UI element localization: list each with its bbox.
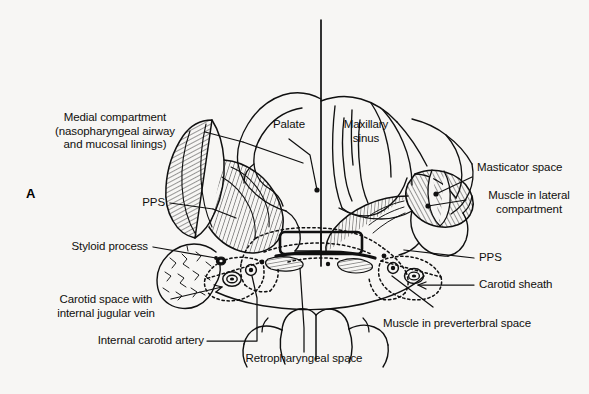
label-carotid-sheath: Carotid sheath (479, 278, 583, 292)
masticator-dot (433, 191, 438, 196)
label-medial-compartment: Medial compartment (nasopharyngeal airwa… (20, 111, 210, 152)
palate-dot (314, 187, 319, 192)
label-masticator-space: Masticator space (477, 161, 589, 175)
label-styloid-process: Styloid process (38, 240, 148, 254)
label-carotid-space: Carotid space with internal jugular vein (40, 293, 172, 320)
label-muscle-prevertebral-space: Muscle in preverterbral space (383, 317, 583, 331)
lateral-muscle-dot (425, 203, 430, 208)
label-pps-left: PPS (93, 196, 165, 210)
leader-medial-compartment (205, 132, 243, 142)
label-palate: Palate (262, 118, 316, 132)
label-retropharyngeal-space: Retropharyngeal space (236, 352, 372, 366)
label-maxillary-sinus: Maxillary sinus (334, 118, 398, 145)
leader-pps-right (404, 250, 474, 258)
label-pps-right: PPS (479, 251, 529, 265)
label-internal-carotid-artery: Internal carotid artery (60, 334, 204, 348)
leader-muscle-prevertebral (392, 276, 433, 307)
label-muscle-lateral-compartment: Muscle in lateral compartment (470, 189, 588, 216)
leader-palate (289, 139, 317, 190)
panel-letter-a: A (26, 186, 35, 201)
anatomy-figure: A Medial compartment (nasopharyngeal air… (0, 0, 589, 394)
